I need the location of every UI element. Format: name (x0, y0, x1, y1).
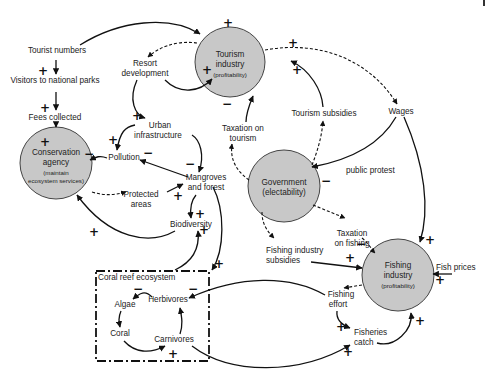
urban-label-2: infrastructure (134, 131, 182, 140)
minus-sign: − (133, 282, 143, 296)
plus-sign: + (223, 16, 233, 30)
algae-label: Algae (115, 300, 136, 309)
plus-sign: + (38, 64, 48, 78)
government-sub: (electability) (262, 188, 306, 197)
plus-sign: + (202, 63, 212, 77)
causal-loop-diagram: Tourism industry (profitability) Conserv… (0, 0, 487, 386)
fees-label: Fees collected (29, 113, 82, 122)
protected-label: Protected (123, 190, 158, 199)
tax-tourism-label-2: tourism (230, 134, 257, 143)
public-protest-label: public protest (346, 166, 395, 175)
tourism-sub: (profitability) (213, 71, 247, 78)
plus-sign: + (40, 135, 50, 149)
fisheries-catch-label: Fisheries (354, 328, 387, 337)
minus-sign: − (143, 146, 153, 160)
plus-sign: + (435, 273, 445, 287)
fishing-label: Fishing (385, 261, 412, 270)
plus-sign: + (336, 320, 346, 334)
plus-sign: + (425, 233, 435, 247)
plus-sign: + (132, 109, 142, 123)
minus-sign: − (185, 157, 195, 171)
fishing-sub: (profitability) (381, 282, 415, 289)
plus-sign: + (168, 347, 178, 361)
minus-sign: − (222, 97, 232, 111)
conservation-sub: (maintain (43, 169, 69, 176)
mangroves-label-2: and forest (188, 183, 225, 192)
plus-sign: + (292, 63, 302, 77)
resort-label-2: development (122, 69, 170, 78)
page-edge-mark (483, 0, 485, 6)
fisheries-catch-label-2: catch (354, 338, 374, 347)
coral-label: Coral (110, 329, 130, 338)
plus-sign: + (214, 257, 224, 271)
plus-sign: + (89, 225, 99, 239)
wages-label: Wages (388, 107, 413, 116)
resort-label: Resort (133, 59, 158, 68)
plus-sign: + (108, 133, 118, 147)
herbivores-label: Herbivores (148, 295, 188, 304)
visitors-label: Visitors to national parks (10, 76, 99, 85)
fish-subsidies-label-2: subsidies (266, 256, 300, 265)
plus-sign: + (288, 36, 298, 50)
fishing-label-2: industry (384, 271, 414, 280)
fish-prices-label: Fish prices (436, 263, 476, 272)
tourist-numbers-label: Tourist numbers (28, 46, 86, 55)
mangroves-label: Mangroves (186, 173, 227, 182)
carnivores-label: Carnivores (154, 335, 194, 344)
tourism-label-2: industry (216, 60, 246, 69)
coral-reef-label: Coral reef ecosystem (98, 273, 176, 282)
government-label: Government (261, 178, 307, 187)
tourism-label: Tourism (216, 50, 245, 59)
conservation-label: Conservation (32, 148, 81, 157)
minus-sign: − (321, 174, 331, 188)
plus-sign: + (199, 223, 209, 237)
pollution-label: Pollution (108, 153, 140, 162)
plus-sign: + (343, 345, 353, 359)
conservation-agency-node: Conservation agency (maintain ecosystem … (20, 127, 92, 199)
conservation-sub-2: ecosystem services) (28, 177, 84, 184)
fishing-effort-label-2: effort (329, 300, 348, 309)
plus-sign: + (173, 189, 183, 203)
plus-sign: + (415, 314, 425, 328)
fish-subsidies-label: Fishing industry (266, 246, 324, 255)
conservation-label-2: agency (43, 158, 70, 167)
tax-tourism-label: Taxation on (222, 124, 264, 133)
tourism-subsidies-label: Tourism subsidies (291, 109, 356, 118)
minus-sign: − (188, 282, 198, 296)
minus-sign: − (356, 237, 366, 251)
government-node: Government (electability) (248, 150, 320, 222)
plus-sign: + (40, 101, 50, 115)
plus-sign: + (345, 251, 355, 265)
fishing-effort-label: Fishing (328, 290, 355, 299)
urban-label: Urban (149, 121, 172, 130)
minus-sign: − (84, 147, 94, 161)
tourism-industry-node: Tourism industry (profitability) (195, 27, 265, 97)
protected-label-2: areas (131, 200, 151, 209)
plus-sign: + (195, 207, 205, 221)
